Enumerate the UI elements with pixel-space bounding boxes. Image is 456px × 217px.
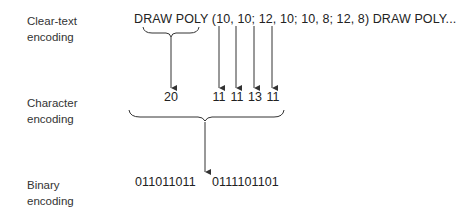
character-brace-icon bbox=[129, 110, 284, 121]
command-brace-icon bbox=[143, 27, 199, 37]
